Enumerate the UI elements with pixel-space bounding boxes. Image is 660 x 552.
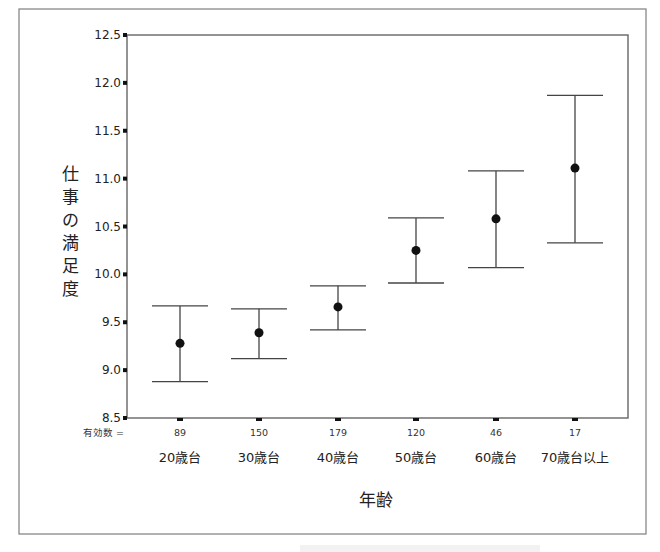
y-tick-mark: [123, 272, 127, 276]
error-bar: [152, 306, 208, 382]
y-tick-mark: [123, 81, 127, 85]
mean-marker: [255, 328, 264, 337]
mean-marker: [492, 214, 501, 223]
chart: 8.59.09.510.010.511.011.512.012.5有効数 =89…: [0, 0, 660, 552]
category-label: 60歳台: [475, 450, 518, 465]
y-tick-mark: [123, 320, 127, 324]
x-axis-title: 年齢: [359, 490, 393, 510]
x-tick-mark: [177, 418, 183, 421]
x-tick-mark: [572, 418, 578, 421]
category-label: 20歳台: [159, 450, 202, 465]
category-label: 70歳台以上: [541, 450, 610, 465]
y-tick-mark: [123, 33, 127, 37]
error-bar: [547, 95, 603, 242]
y-tick-label: 9.5: [102, 315, 121, 329]
cut-off-caption: [300, 545, 540, 552]
plot-frame: [127, 35, 628, 418]
n-count-label: 179: [329, 427, 347, 438]
x-tick-mark: [493, 418, 499, 421]
y-tick-mark: [123, 129, 127, 133]
y-tick-label: 9.0: [102, 363, 121, 377]
mean-marker: [571, 164, 580, 173]
x-tick-mark: [413, 418, 419, 421]
y-tick-label: 12.5: [94, 28, 121, 42]
x-tick-mark: [256, 418, 262, 421]
y-tick-label: 12.0: [94, 76, 121, 90]
y-tick-mark: [123, 225, 127, 229]
n-count-label: 46: [490, 427, 502, 438]
category-label: 30歳台: [238, 450, 281, 465]
n-prefix-label: 有効数 =: [83, 427, 124, 438]
mean-marker: [176, 339, 185, 348]
y-tick-mark: [123, 416, 127, 420]
y-axis-title: 仕事の満足度: [62, 164, 79, 299]
y-tick-mark: [123, 177, 127, 181]
y-tick-label: 10.0: [94, 267, 121, 281]
category-label: 40歳台: [317, 450, 360, 465]
category-label: 50歳台: [395, 450, 438, 465]
y-tick-mark: [123, 368, 127, 372]
y-tick-label: 8.5: [102, 411, 121, 425]
n-count-label: 17: [569, 427, 581, 438]
y-tick-label: 11.0: [94, 172, 121, 186]
mean-marker: [334, 302, 343, 311]
error-bar: [231, 309, 287, 359]
error-bar: [468, 171, 524, 268]
error-bar: [388, 218, 444, 283]
n-count-label: 120: [407, 427, 425, 438]
error-bar: [310, 286, 366, 330]
y-tick-label: 11.5: [94, 124, 121, 138]
n-count-label: 150: [250, 427, 268, 438]
y-tick-label: 10.5: [94, 220, 121, 234]
n-count-label: 89: [174, 427, 186, 438]
plot-area: 8.59.09.510.010.511.011.512.012.5有効数 =89…: [83, 28, 628, 465]
mean-marker: [412, 246, 421, 255]
x-tick-mark: [335, 418, 341, 421]
